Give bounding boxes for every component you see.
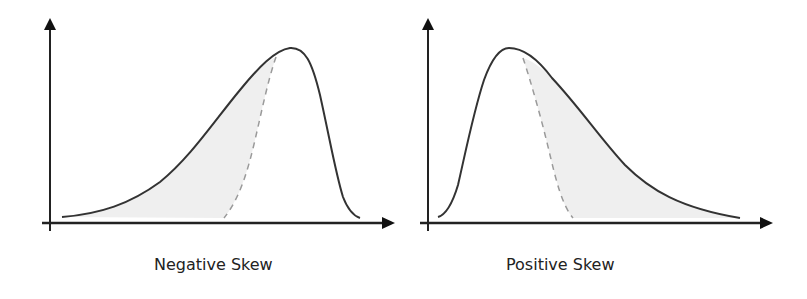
positive-x-axis-arrow-icon xyxy=(760,217,773,229)
positive-skew-panel xyxy=(420,18,773,231)
positive-y-axis-arrow-icon xyxy=(422,18,434,30)
negative-skew-panel xyxy=(42,18,395,231)
positive-skew-label: Positive Skew xyxy=(506,256,615,274)
skew-diagram xyxy=(0,0,807,299)
negative-skew-label: Negative Skew xyxy=(154,256,273,274)
negative-skew-shaded-region xyxy=(62,57,276,218)
negative-y-axis-arrow-icon xyxy=(44,18,56,30)
negative-x-axis-arrow-icon xyxy=(382,217,395,229)
